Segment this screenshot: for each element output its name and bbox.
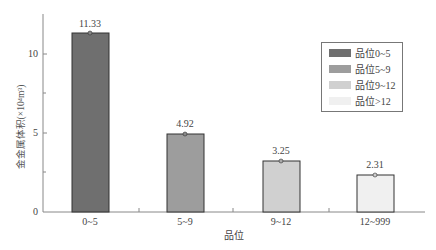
- legend-label: 品位>12: [355, 93, 391, 108]
- legend-item: 品位>12: [329, 94, 391, 107]
- legend-item: 品位9~12: [329, 78, 395, 91]
- y-tick-label: 0: [33, 206, 38, 217]
- value-label: 2.31: [366, 159, 384, 170]
- y-axis-title: 金金属体积(×10⁴m³): [13, 62, 27, 192]
- legend-item: 品位0~5: [329, 46, 390, 59]
- legend-label: 品位0~5: [355, 45, 390, 60]
- x-tick-label: 9~12: [271, 216, 291, 227]
- legend-label: 品位5~9: [355, 61, 390, 76]
- bar-9-12: [263, 161, 300, 212]
- legend: 品位0~5 品位5~9 品位9~12 品位>12: [321, 42, 403, 112]
- value-label: 3.25: [272, 145, 290, 156]
- bar-0-5: [72, 33, 109, 212]
- legend-label: 品位9~12: [355, 77, 395, 92]
- x-tick-label: 0~5: [82, 216, 97, 227]
- legend-item: 品位5~9: [329, 62, 390, 75]
- value-label: 11.33: [79, 18, 101, 29]
- y-tick-label: 10: [28, 48, 38, 59]
- legend-swatch: [329, 81, 351, 89]
- x-tick-label: 5~9: [177, 216, 192, 227]
- bar-5-9: [167, 134, 204, 212]
- legend-swatch: [329, 49, 351, 57]
- bar-12-999: [357, 175, 394, 212]
- x-axis-title: 品位: [224, 229, 244, 241]
- value-label: 4.92: [176, 118, 194, 129]
- bar-chart: 10 5 0 11.33 4.92 3.25 2.31 0~5 5~9 9~12…: [0, 0, 436, 250]
- legend-swatch: [329, 97, 351, 105]
- y-tick-label: 5: [33, 127, 38, 138]
- legend-swatch: [329, 65, 351, 73]
- x-tick-label: 12~999: [360, 216, 390, 227]
